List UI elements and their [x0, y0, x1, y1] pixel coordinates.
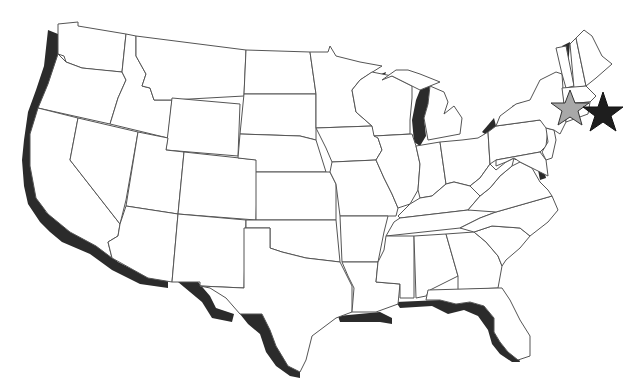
states — [30, 22, 612, 372]
us-map — [0, 0, 643, 390]
state-florida — [426, 288, 530, 360]
state-north-dakota — [244, 50, 316, 94]
state-wyoming — [166, 98, 240, 156]
state-colorado — [178, 152, 258, 220]
state-new-mexico — [172, 214, 246, 288]
state-iowa — [316, 126, 382, 162]
state-south-dakota — [240, 94, 316, 140]
state-kansas — [256, 172, 336, 220]
state-arkansas — [340, 216, 388, 262]
state-michigan-lower — [424, 86, 462, 140]
state-montana — [136, 36, 246, 100]
